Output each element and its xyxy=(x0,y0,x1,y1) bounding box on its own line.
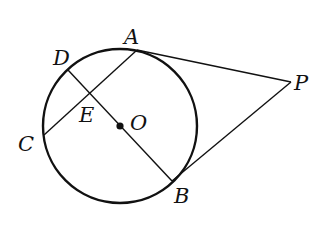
label-b: B xyxy=(173,184,189,208)
label-d: D xyxy=(52,46,70,70)
label-o: O xyxy=(130,111,147,135)
tangent-pb xyxy=(172,82,291,181)
label-e: E xyxy=(78,103,94,127)
label-c: C xyxy=(18,132,34,156)
label-a: A xyxy=(122,25,139,49)
center-dot-o xyxy=(116,122,123,129)
geometry-diagram: A B C D E O P xyxy=(0,0,328,226)
tangent-pa xyxy=(137,50,291,82)
label-p: P xyxy=(293,71,309,95)
